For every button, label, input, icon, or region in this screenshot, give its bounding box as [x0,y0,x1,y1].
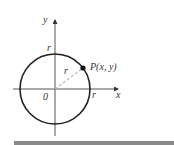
radius-label-top: r [47,42,51,53]
radius-label-right: r [92,89,96,100]
point-p [80,65,85,70]
radius-label-diagonal: r [64,65,68,76]
y-axis-label: y [42,14,48,25]
circle-diagram: y x 0 r r r P(x, y) [0,0,174,145]
point-p-label: P(x, y) [89,61,117,73]
x-axis-label: x [115,89,121,100]
dashed-radius [55,68,83,89]
origin-label: 0 [43,91,48,102]
bottom-rule [14,141,174,145]
